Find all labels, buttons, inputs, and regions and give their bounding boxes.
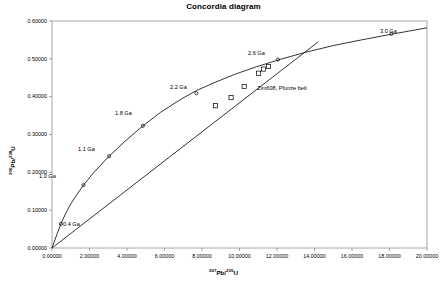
age-label: 0.4 Ga — [63, 221, 80, 227]
age-label: 3.0 Ga — [380, 28, 397, 34]
age-label: 1.1 Ga — [78, 146, 95, 152]
plot-frame — [52, 21, 427, 248]
concordia-curve — [52, 28, 427, 248]
y-tick-label: 0.10000 — [2, 207, 47, 213]
data-point-marker — [266, 64, 270, 68]
concordia-age-markers — [59, 32, 393, 225]
data-point-marker — [213, 104, 217, 108]
data-point-marker — [261, 67, 265, 71]
x-tick-label: 16.00000 — [332, 253, 372, 259]
y-tick-label: 0.30000 — [2, 131, 47, 137]
y-tick-label: 0.60000 — [2, 18, 47, 24]
age-label: 1.8 Ga — [115, 110, 132, 116]
discordia-line — [52, 42, 318, 248]
x-axis-ticks — [52, 248, 427, 251]
data-point-marker — [242, 84, 246, 88]
x-tick-label: 18.00000 — [370, 253, 410, 259]
y-tick-label: 0.40000 — [2, 93, 47, 99]
sample-label: Zim608, Pfunze belt — [257, 85, 307, 91]
x-axis-nuclide: Pb — [216, 269, 224, 276]
age-marker — [195, 92, 198, 95]
age-label: 1.0 Ga — [39, 173, 56, 179]
x-tick-label: 4.00000 — [107, 253, 147, 259]
age-label: 2.2 Ga — [170, 84, 187, 90]
data-point-marker — [229, 96, 233, 100]
x-tick-label: 0.00000 — [32, 253, 72, 259]
age-label: 2.6 Ga — [248, 50, 265, 56]
x-tick-label: 12.00000 — [257, 253, 297, 259]
y-axis-ticks — [49, 21, 52, 248]
concordia-chart: Concordia diagram 0.000000.100000.200000… — [0, 0, 447, 283]
x-tick-label: 8.00000 — [182, 253, 222, 259]
y-axis-title: 206Pb/238U — [9, 146, 16, 175]
y-axis-mass-number: 206 — [8, 168, 13, 175]
x-tick-label: 2.00000 — [70, 253, 110, 259]
y-axis-denominator: U — [9, 146, 16, 150]
x-tick-label: 20.00000 — [407, 253, 447, 259]
plot-canvas — [0, 0, 447, 283]
y-tick-label: 0.00000 — [2, 245, 47, 251]
x-axis-denominator: U — [233, 269, 237, 276]
x-tick-label: 6.00000 — [145, 253, 185, 259]
y-axis-nuclide: Pb — [9, 160, 16, 168]
x-tick-label: 14.00000 — [295, 253, 335, 259]
x-tick-label: 10.00000 — [220, 253, 260, 259]
y-axis-denom-mass-number: 238 — [8, 151, 13, 158]
series-layer — [52, 28, 427, 248]
data-point-marker — [257, 71, 261, 75]
y-tick-label: 0.50000 — [2, 56, 47, 62]
x-axis-title: 207Pb/235U — [0, 269, 447, 276]
